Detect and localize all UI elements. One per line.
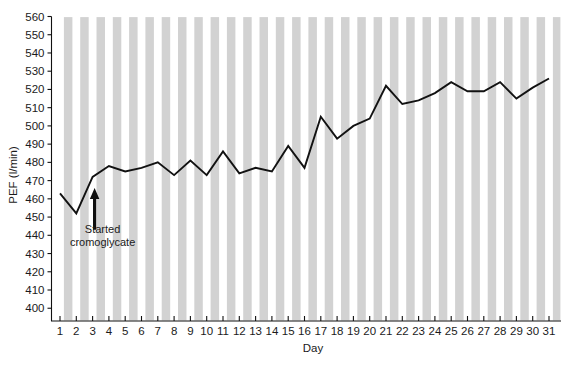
y-tick-label-420: 420 — [25, 266, 44, 278]
y-tick-label-430: 430 — [25, 248, 44, 260]
y-tick-label-450: 450 — [25, 211, 44, 223]
band-6 — [145, 17, 153, 320]
y-tick-label-530: 530 — [25, 65, 44, 77]
y-tick-label-550: 550 — [25, 29, 44, 41]
x-tick-label-5: 5 — [122, 325, 128, 337]
y-tick-label-510: 510 — [25, 102, 44, 114]
band-22 — [406, 17, 414, 320]
band-17 — [325, 17, 333, 320]
band-26 — [471, 17, 479, 320]
x-tick-label-31: 31 — [543, 325, 556, 337]
band-29 — [520, 17, 528, 320]
y-tick-label-520: 520 — [25, 83, 44, 95]
x-tick-label-28: 28 — [494, 325, 507, 337]
band-16 — [308, 17, 316, 320]
band-15 — [292, 17, 300, 320]
x-tick-label-9: 9 — [187, 325, 193, 337]
x-tick-label-7: 7 — [155, 325, 161, 337]
x-tick-label-8: 8 — [171, 325, 177, 337]
x-tick-label-29: 29 — [510, 325, 523, 337]
band-27 — [488, 17, 496, 320]
y-tick-label-490: 490 — [25, 138, 44, 150]
band-14 — [276, 17, 284, 320]
band-1 — [64, 17, 72, 320]
y-tick-label-410: 410 — [25, 284, 44, 296]
chart-canvas: 4004104204304404504604704804905005105205… — [0, 0, 573, 370]
x-tick-label-17: 17 — [314, 325, 327, 337]
x-tick-label-24: 24 — [429, 325, 442, 337]
x-tick-label-22: 22 — [396, 325, 409, 337]
y-axis-ticks: 4004104204304404504604704804905005105205… — [25, 11, 51, 315]
y-tick-label-540: 540 — [25, 47, 44, 59]
x-tick-label-15: 15 — [282, 325, 295, 337]
band-28 — [504, 17, 512, 320]
x-tick-label-19: 19 — [347, 325, 360, 337]
y-tick-label-460: 460 — [25, 193, 44, 205]
band-19 — [357, 17, 365, 320]
band-31 — [553, 17, 560, 320]
band-11 — [227, 17, 235, 320]
x-tick-label-30: 30 — [526, 325, 539, 337]
band-25 — [455, 17, 463, 320]
axis-frame — [52, 17, 562, 322]
x-tick-label-13: 13 — [249, 325, 262, 337]
x-tick-label-20: 20 — [363, 325, 376, 337]
band-30 — [537, 17, 545, 320]
x-tick-label-26: 26 — [461, 325, 474, 337]
annotation-text-line1: Started — [85, 223, 120, 235]
x-tick-label-11: 11 — [217, 325, 229, 337]
x-tick-label-21: 21 — [380, 325, 393, 337]
y-tick-label-440: 440 — [25, 229, 44, 241]
x-tick-label-6: 6 — [138, 325, 144, 337]
chart-axes — [52, 17, 562, 322]
pef-line-chart: 4004104204304404504604704804905005105205… — [0, 0, 573, 370]
x-tick-label-12: 12 — [233, 325, 246, 337]
band-18 — [341, 17, 349, 320]
x-tick-label-27: 27 — [477, 325, 490, 337]
y-tick-label-470: 470 — [25, 175, 44, 187]
x-tick-label-10: 10 — [200, 325, 213, 337]
x-tick-label-23: 23 — [412, 325, 425, 337]
annotation-text-line2: cromoglycate — [70, 236, 135, 248]
x-axis-title: Day — [303, 342, 324, 354]
band-21 — [390, 17, 398, 320]
y-tick-label-500: 500 — [25, 120, 44, 132]
x-tick-label-1: 1 — [57, 325, 63, 337]
x-tick-label-4: 4 — [106, 325, 113, 337]
x-tick-label-14: 14 — [266, 325, 279, 337]
x-tick-label-16: 16 — [298, 325, 311, 337]
y-axis-title: PEF (l/min) — [7, 146, 19, 204]
y-tick-label-480: 480 — [25, 156, 44, 168]
band-24 — [439, 17, 447, 320]
x-tick-label-2: 2 — [73, 325, 79, 337]
y-tick-label-400: 400 — [25, 302, 44, 314]
x-tick-label-3: 3 — [89, 325, 95, 337]
band-23 — [423, 17, 431, 320]
band-2 — [80, 17, 88, 320]
y-tick-label-560: 560 — [25, 11, 44, 23]
x-tick-label-18: 18 — [331, 325, 344, 337]
x-tick-label-25: 25 — [445, 325, 458, 337]
band-20 — [374, 17, 382, 320]
